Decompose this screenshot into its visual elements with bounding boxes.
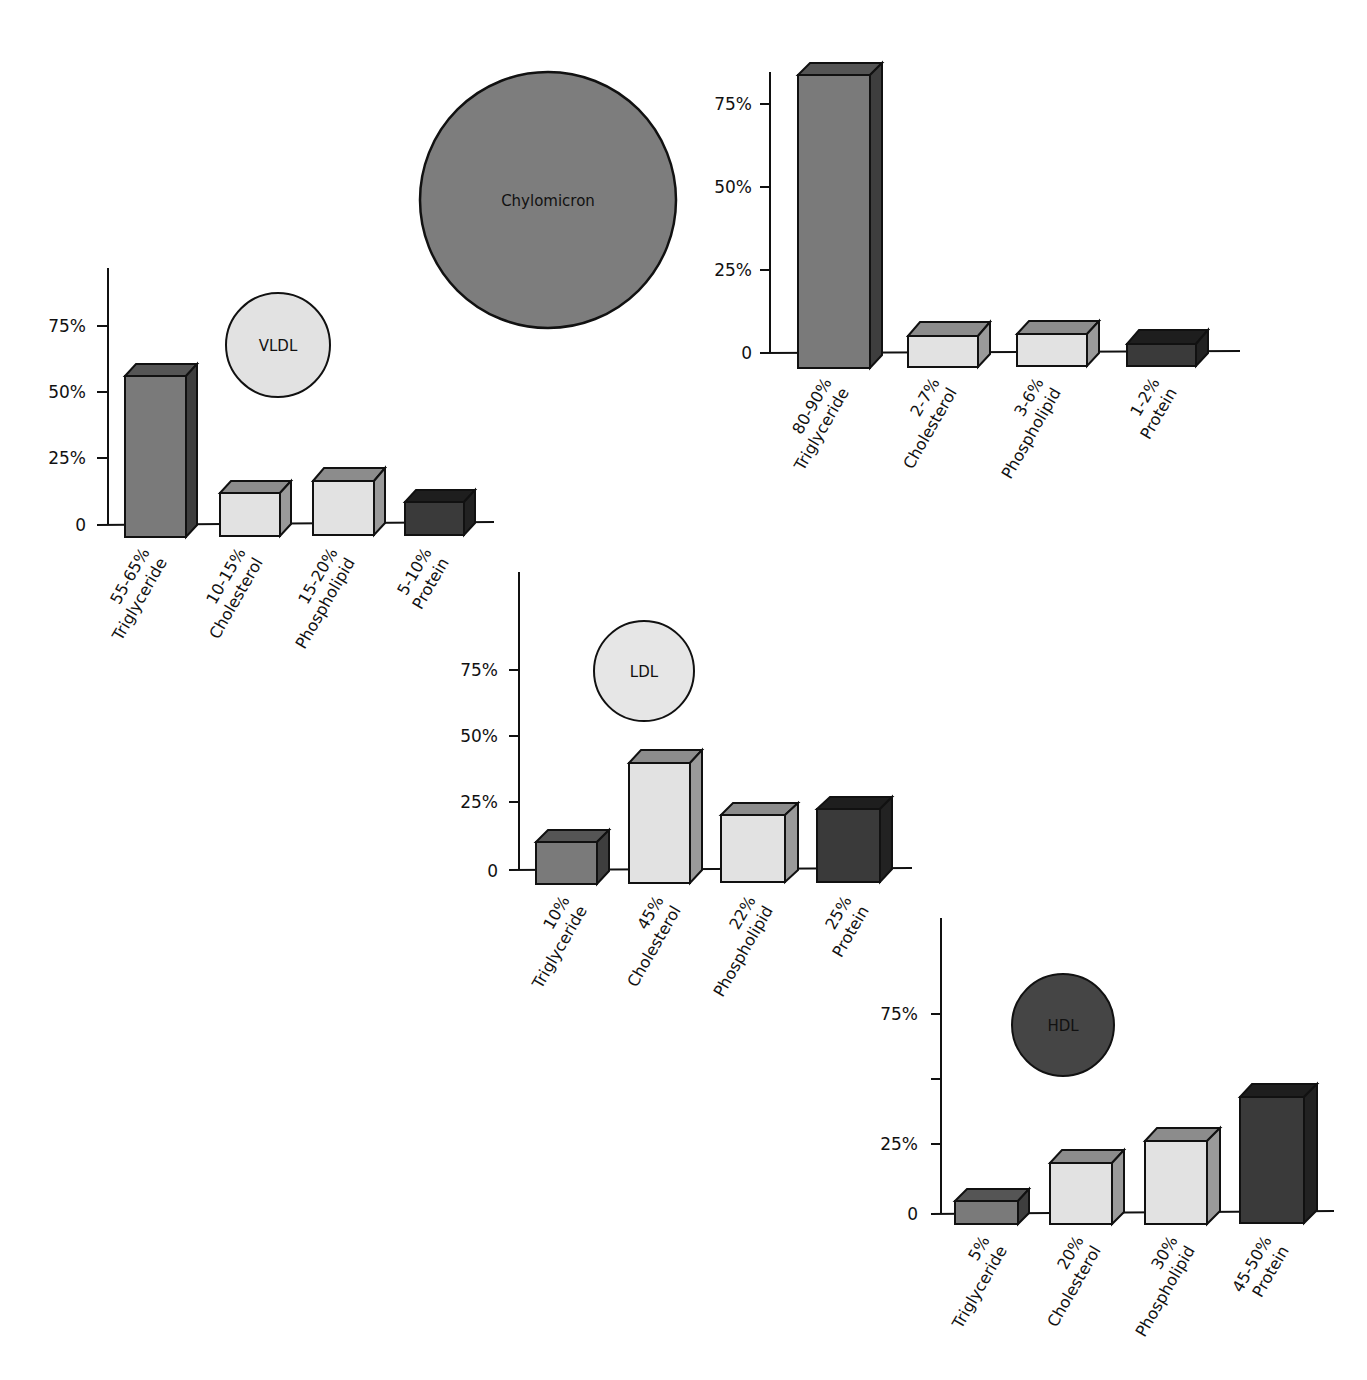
y-tick-label: 0	[487, 861, 498, 881]
bar-triglyceride	[125, 364, 197, 537]
bar-phospholipid	[721, 803, 798, 882]
vldl-particle-label: VLDL	[259, 337, 298, 355]
y-tick-label: 25%	[880, 1134, 918, 1154]
bar-cholesterol	[220, 481, 291, 536]
bar-cholesterol	[908, 322, 990, 367]
bar-protein	[1127, 330, 1208, 366]
bar-triglyceride	[798, 63, 882, 368]
lipoprotein-composition-figure: Chylomicron 75% 50% 25% 0	[0, 0, 1367, 1380]
ldl-particle-label: LDL	[630, 663, 659, 681]
bar-triglyceride	[536, 830, 609, 884]
bar-protein	[817, 797, 892, 882]
y-tick-label: 0	[741, 343, 752, 363]
bar-phospholipid	[313, 468, 385, 535]
bar-phospholipid	[1145, 1128, 1220, 1224]
y-tick-label: 0	[907, 1204, 918, 1224]
y-tick-label: 75%	[460, 660, 498, 680]
y-tick-label: 75%	[880, 1004, 918, 1024]
y-tick-label: 50%	[714, 177, 752, 197]
chylomicron-chart: Chylomicron 75% 50% 25% 0	[420, 63, 1240, 482]
bar-triglyceride	[955, 1189, 1029, 1224]
y-tick-label: 0	[75, 515, 86, 535]
y-tick-label: 25%	[48, 448, 86, 468]
bar-cholesterol	[629, 750, 702, 883]
y-tick-label: 50%	[48, 382, 86, 402]
chylomicron-particle-label: Chylomicron	[501, 192, 595, 210]
hdl-particle-label: HDL	[1047, 1017, 1079, 1035]
bar-protein	[405, 490, 475, 535]
y-tick-label: 25%	[714, 260, 752, 280]
ldl-chart: LDL 75% 50% 25% 0 10%	[460, 572, 912, 1000]
bar-protein	[1240, 1084, 1317, 1223]
bar-phospholipid	[1017, 321, 1099, 366]
y-tick-label: 50%	[460, 726, 498, 746]
vldl-chart: VLDL 75% 50% 25% 0 55	[48, 268, 494, 652]
y-tick-label: 75%	[714, 94, 752, 114]
bar-cholesterol	[1050, 1150, 1124, 1224]
hdl-chart: HDL 75% 25% 0 5% Tr	[880, 918, 1334, 1340]
y-tick-label: 75%	[48, 316, 86, 336]
y-tick-label: 25%	[460, 792, 498, 812]
